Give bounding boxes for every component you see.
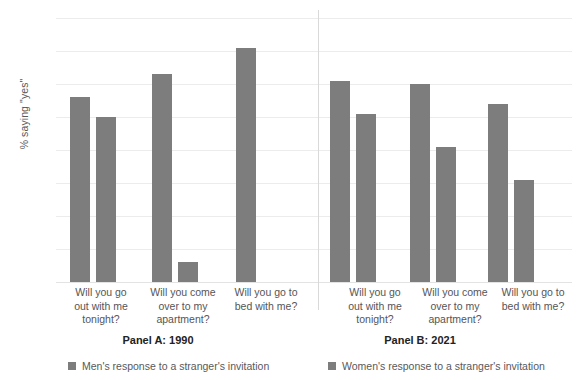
plot-area: 01020304050607080 <box>56 18 572 282</box>
category-label-line: out with me <box>348 300 402 312</box>
category-label-line: Will you go <box>349 286 400 298</box>
chart-legend: Men's response to a stranger's invitatio… <box>0 360 578 378</box>
category-label-line: apartment? <box>428 313 481 325</box>
category-label-line: Will you come <box>150 286 215 298</box>
bar <box>236 48 256 282</box>
bar <box>178 262 198 282</box>
bar <box>410 84 430 282</box>
bar-chart-figure: % saying "yes" 01020304050607080 Will yo… <box>0 0 578 380</box>
category-label-line: over to my <box>158 300 207 312</box>
panel-a-title: Panel A: 1990 <box>78 334 238 346</box>
category-label-line: bed with me? <box>235 300 297 312</box>
legend-swatch-icon <box>328 362 336 370</box>
bar <box>488 104 508 282</box>
category-label-line: Will you go to <box>234 286 297 298</box>
category-label-line: Will you come <box>422 286 487 298</box>
legend-label-men: Men's response to a stranger's invitatio… <box>82 360 269 372</box>
bar <box>152 74 172 282</box>
category-label-line: over to my <box>430 300 479 312</box>
legend-entry-women[interactable]: Women's response to a stranger's invitat… <box>328 360 545 372</box>
category-label-line: bed with me? <box>502 300 564 312</box>
bar <box>96 117 116 282</box>
bar <box>330 81 350 282</box>
category-label: Will you come over to my apartment? <box>140 286 226 327</box>
category-label: Will you go out with me tonight? <box>332 286 418 327</box>
legend-label-women: Women's response to a stranger's invitat… <box>342 360 545 372</box>
category-label: Will you go to bed with me? <box>490 286 576 313</box>
category-label-line: out with me <box>74 300 128 312</box>
bar <box>436 147 456 282</box>
category-label-line: apartment? <box>156 313 209 325</box>
category-label: Will you come over to my apartment? <box>412 286 498 327</box>
category-label: Will you go to bed with me? <box>223 286 309 313</box>
panel-divider <box>318 10 319 310</box>
y-axis-title: % saying "yes" <box>18 44 30 184</box>
category-label-line: Will you go <box>75 286 126 298</box>
bar <box>514 180 534 282</box>
panel-a-bars <box>56 18 312 282</box>
category-label-line: tonight? <box>356 313 393 325</box>
panel-b-bars <box>324 18 572 282</box>
panel-b-title: Panel B: 2021 <box>340 334 500 346</box>
category-label: Will you go out with me tonight? <box>58 286 144 327</box>
category-label-line: tonight? <box>82 313 119 325</box>
bar <box>356 114 376 282</box>
legend-swatch-icon <box>68 362 76 370</box>
category-label-line: Will you go to <box>501 286 564 298</box>
legend-entry-men[interactable]: Men's response to a stranger's invitatio… <box>68 360 269 372</box>
gridline <box>56 282 572 283</box>
bar <box>70 97 90 282</box>
